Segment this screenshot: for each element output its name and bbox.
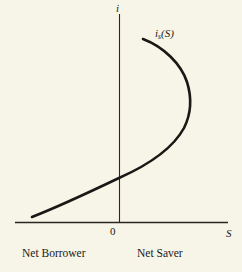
chart-canvas [0, 0, 242, 272]
curve-label-argument: (S) [161, 27, 174, 39]
curve-label: is(S) [155, 28, 174, 39]
origin-label: 0 [110, 226, 116, 237]
region-label-net-borrower: Net Borrower [22, 248, 86, 260]
savings-supply-figure: i S 0 is(S) Net Borrower Net Saver [0, 0, 242, 272]
savings-supply-curve [32, 39, 190, 217]
x-axis-label: S [226, 228, 232, 239]
region-label-net-saver: Net Saver [137, 248, 183, 260]
curve-label-subscript: s [158, 32, 161, 41]
y-axis-label: i [116, 3, 119, 14]
